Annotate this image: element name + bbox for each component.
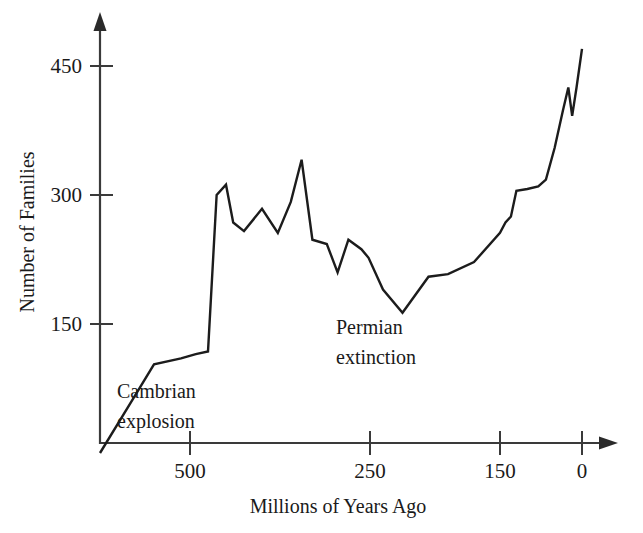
line-chart-svg: 450 300 150 Number of Families 500 250 1… — [0, 0, 643, 533]
permian-label-line2: extinction — [336, 346, 416, 368]
x-tick-label-250: 250 — [354, 459, 386, 483]
permian-label-line1: Permian — [336, 316, 403, 338]
x-axis-title: Millions of Years Ago — [250, 495, 427, 518]
y-axis-title: Number of Families — [16, 151, 38, 312]
y-axis-arrowhead — [94, 12, 107, 31]
chart-figure: 450 300 150 Number of Families 500 250 1… — [0, 0, 643, 533]
annotation-permian: Permian extinction — [336, 316, 416, 368]
x-tick-label-500: 500 — [174, 459, 206, 483]
x-axis-arrowhead — [599, 437, 618, 450]
y-tick-label-150: 150 — [51, 312, 83, 336]
y-axis-group: 450 300 150 Number of Families — [16, 12, 113, 444]
x-tick-label-150: 150 — [484, 459, 516, 483]
x-tick-label-0: 0 — [577, 459, 588, 483]
cambrian-label-line1: Cambrian — [117, 380, 196, 402]
x-axis-group: 500 250 150 0 Millions of Years Ago — [99, 431, 618, 518]
cambrian-label-line2: explosion — [117, 410, 195, 433]
y-tick-label-450: 450 — [51, 54, 83, 78]
y-tick-label-300: 300 — [51, 183, 83, 207]
